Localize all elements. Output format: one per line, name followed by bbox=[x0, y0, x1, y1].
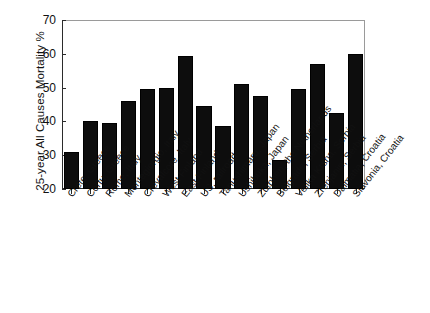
y-tick-mark bbox=[62, 189, 66, 190]
y-tick-label: 60 bbox=[26, 48, 56, 60]
y-tick-label: 50 bbox=[26, 82, 56, 94]
bar-chart: 25-year All Causes Mortality % 706050403… bbox=[0, 0, 430, 313]
y-tick-label: 20 bbox=[26, 183, 56, 195]
y-tick-label: 40 bbox=[26, 115, 56, 127]
y-axis-title: 25-year All Causes Mortality % bbox=[34, 11, 46, 211]
y-tick-label: 70 bbox=[26, 14, 56, 26]
y-tick-label: 30 bbox=[26, 149, 56, 161]
